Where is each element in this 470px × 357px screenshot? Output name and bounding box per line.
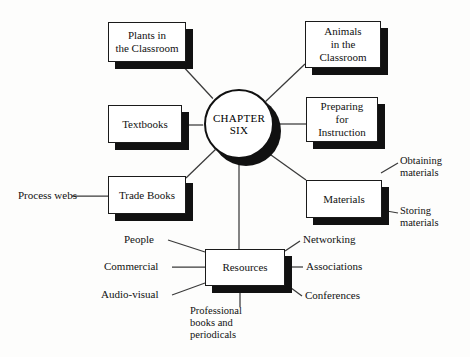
connector-resources-networking bbox=[285, 241, 300, 251]
chapter-hub-line2: SIX bbox=[213, 124, 265, 136]
connector-hub-animals bbox=[264, 64, 305, 103]
leaf-audio-visual[interactable]: Audio-visual bbox=[101, 288, 158, 301]
node-resources[interactable]: Resources bbox=[205, 249, 285, 286]
connector-materials-obtaining bbox=[381, 163, 398, 173]
node-textbooks[interactable]: Textbooks bbox=[108, 105, 182, 143]
leaf-associations[interactable]: Associations bbox=[306, 260, 362, 273]
node-trade-books[interactable]: Trade Books bbox=[108, 176, 186, 214]
node-plants-in-the-classroom[interactable]: Plants inthe Classroom bbox=[108, 22, 186, 62]
leaf-professional-books-and-periodicals[interactable]: Professionalbooks andperiodicals bbox=[190, 305, 268, 342]
leaf-conferences[interactable]: Conferences bbox=[305, 289, 360, 302]
connector-resources-people bbox=[168, 240, 205, 252]
leaf-obtaining-materials[interactable]: Obtainingmaterials bbox=[400, 155, 466, 179]
connector-resources-audiovisual bbox=[172, 283, 205, 295]
chapter-hub-line1: CHAPTER bbox=[213, 112, 265, 124]
leaf-networking[interactable]: Networking bbox=[303, 233, 356, 246]
connector-hub-trade bbox=[186, 149, 216, 178]
node-animals-in-the-classroom[interactable]: Animalsin theClassroom bbox=[305, 21, 381, 68]
node-preparing-for-instruction[interactable]: PreparingforInstruction bbox=[306, 97, 378, 142]
concept-map-diagram: Plants inthe Classroom Animalsin theClas… bbox=[0, 0, 470, 357]
leaf-storing-materials[interactable]: Storingmaterials bbox=[400, 205, 466, 229]
chapter-hub[interactable]: CHAPTER SIX bbox=[204, 89, 274, 159]
connector-hub-plants bbox=[180, 63, 217, 103]
node-materials[interactable]: Materials bbox=[306, 180, 382, 218]
leaf-people[interactable]: People bbox=[124, 233, 154, 246]
leaf-process-webs[interactable]: Process webs bbox=[18, 189, 77, 202]
leaf-commercial[interactable]: Commercial bbox=[104, 260, 158, 273]
